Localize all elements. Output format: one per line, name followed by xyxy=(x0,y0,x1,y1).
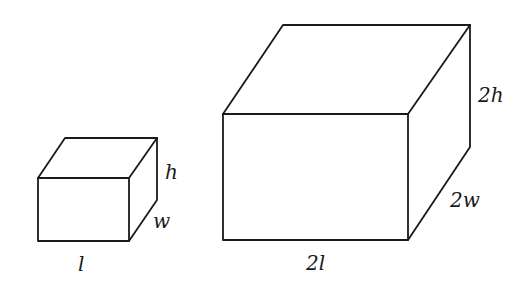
large-box-front-face xyxy=(223,114,408,240)
large-box-length-label: 2l xyxy=(305,251,325,275)
large-box-top-face xyxy=(223,25,470,114)
large-box-height-label: 2h xyxy=(477,83,504,107)
small-box-height-label: h xyxy=(165,160,178,184)
diagram-canvas: h w l 2h 2w 2l xyxy=(0,0,524,281)
large-box-width-label: 2w xyxy=(449,188,480,212)
small-box-front-face xyxy=(38,178,129,241)
large-box: 2h 2w 2l xyxy=(223,25,504,275)
small-box-width-label: w xyxy=(153,209,170,233)
small-box-top-face xyxy=(38,138,157,178)
small-box: h w l xyxy=(38,138,178,276)
small-box-length-label: l xyxy=(78,252,84,276)
